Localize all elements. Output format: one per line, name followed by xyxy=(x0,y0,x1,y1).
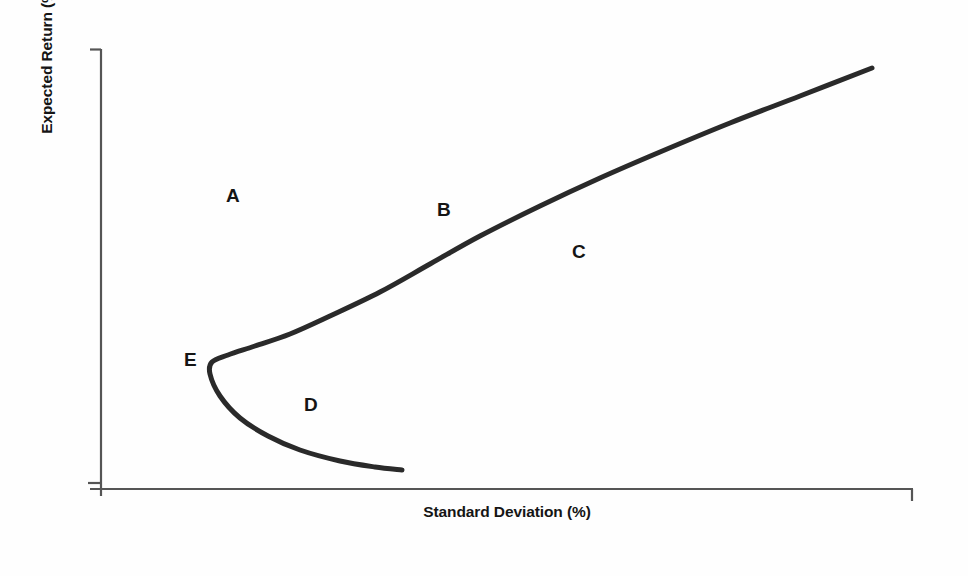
region-label-b: B xyxy=(437,200,451,219)
y-axis xyxy=(88,49,101,496)
x-axis xyxy=(90,489,913,501)
region-label-d: D xyxy=(304,395,318,414)
y-axis-title: Expected Return (%) xyxy=(38,0,56,174)
region-label-a: A xyxy=(226,186,240,205)
x-axis-title: Standard Deviation (%) xyxy=(101,503,913,521)
region-label-c: C xyxy=(572,242,586,261)
region-label-e: E xyxy=(184,350,197,369)
figure-container: Expected Return (%) Standard Deviation (… xyxy=(0,0,968,576)
plot-canvas xyxy=(0,0,968,576)
